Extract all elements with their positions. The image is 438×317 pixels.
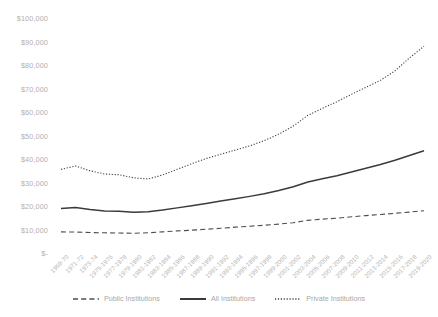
legend-swatch-solid (180, 296, 206, 302)
y-axis-tick-label: $90,000 (21, 37, 48, 46)
y-axis-tick-label: $40,000 (21, 155, 48, 164)
y-axis-tick-label: $10,000 (21, 225, 48, 234)
x-axis: 1969-701971-721973-741975-19761977-19781… (52, 253, 438, 299)
legend-label: Private Institutions (306, 294, 365, 303)
y-axis-tick-label: $100,000 (17, 14, 48, 23)
line-chart: $100,000$90,000$80,000$70,000$60,000$50,… (0, 0, 438, 317)
y-axis-tick-label: $70,000 (21, 84, 48, 93)
y-axis: $100,000$90,000$80,000$70,000$60,000$50,… (0, 0, 52, 317)
y-axis-tick-label: $30,000 (21, 178, 48, 187)
series-line-public-institutions (61, 211, 424, 234)
legend-swatch-dashed (73, 296, 99, 302)
legend-item[interactable]: Private Institutions (275, 294, 365, 303)
y-axis-tick-label: $- (41, 249, 48, 258)
chart-legend: Public InstitutionsAll InstitutionsPriva… (0, 294, 438, 303)
y-axis-tick-label: $20,000 (21, 202, 48, 211)
series-line-all-institutions (61, 151, 424, 213)
legend-swatch-dotted (275, 296, 301, 302)
legend-item[interactable]: Public Institutions (73, 294, 160, 303)
legend-label: All Institutions (211, 294, 255, 303)
legend-label: Public Institutions (104, 294, 160, 303)
y-axis-tick-label: $80,000 (21, 61, 48, 70)
y-axis-tick-label: $50,000 (21, 131, 48, 140)
y-axis-tick-label: $60,000 (21, 108, 48, 117)
legend-item[interactable]: All Institutions (180, 294, 255, 303)
series-line-private-institutions (61, 46, 424, 179)
